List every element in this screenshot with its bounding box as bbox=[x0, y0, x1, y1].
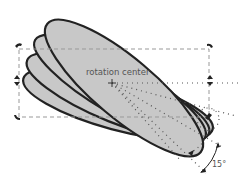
rotation-center-label: rotation center bbox=[86, 67, 150, 77]
rotate-handle-top-left-icon[interactable] bbox=[15, 43, 22, 48]
skew-handle-right-icon[interactable] bbox=[207, 75, 213, 86]
angle-arrow-bottom bbox=[200, 168, 206, 173]
rotation-diagram: 15° rotation center bbox=[0, 0, 251, 188]
ellipse-stack bbox=[17, 1, 220, 176]
angle-label: 15° bbox=[212, 160, 226, 169]
rotate-handle-top-right-icon[interactable] bbox=[207, 44, 213, 48]
angle-arrow-top bbox=[216, 142, 220, 148]
diagram-canvas: 15° rotation center bbox=[0, 0, 251, 188]
